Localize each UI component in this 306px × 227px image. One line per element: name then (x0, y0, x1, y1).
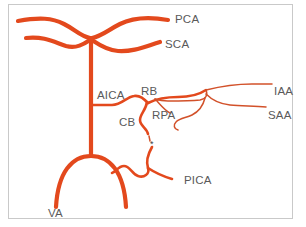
label-iaa: IAA (274, 86, 293, 98)
saa-vessel (206, 94, 266, 107)
sca-right-vessel (92, 40, 160, 51)
label-aica: AICA (97, 90, 125, 102)
label-sca: SCA (165, 39, 189, 51)
label-cb: CB (119, 117, 135, 129)
label-saa: SAA (268, 110, 292, 122)
label-rpa: RPA (152, 110, 175, 122)
cb-vessel (140, 102, 148, 134)
pca-left-vessel (18, 19, 90, 38)
figure-root: PCA SCA AICA RB IAA RPA SAA CB PICA VA * (0, 0, 306, 227)
pca-right-vessel (92, 18, 168, 38)
va-right-limb (91, 156, 126, 207)
sca-left-vessel (26, 38, 90, 47)
rpa-loop-vessel (174, 98, 205, 130)
iaa-vessel (206, 84, 272, 90)
label-pica: PICA (184, 175, 212, 187)
label-va: VA (48, 208, 63, 220)
label-rb: RB (141, 86, 157, 98)
pica-distal-vessel (148, 168, 172, 179)
label-pca: PCA (175, 14, 199, 26)
va-left-limb (56, 156, 91, 207)
asterisk-marker: * (150, 140, 154, 149)
